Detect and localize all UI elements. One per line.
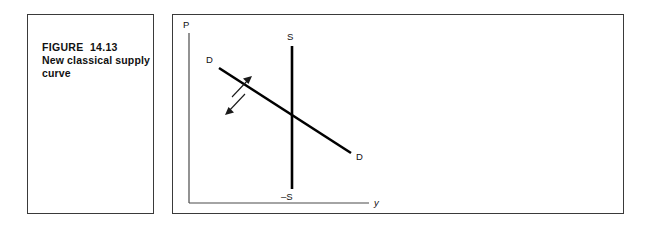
demand-curve-end-label: D: [356, 151, 363, 162]
figure-title-line-2: curve: [42, 67, 146, 80]
supply-demand-chart: P y S –S D D: [173, 15, 623, 213]
x-axis-label: y: [373, 197, 380, 208]
figure-root: FIGURE 14.13 New classical supply curve …: [0, 0, 648, 235]
y-axis-label: P: [183, 19, 189, 30]
demand-curve-line: [219, 68, 351, 153]
figure-caption-text: FIGURE 14.13 New classical supply curve: [42, 41, 146, 81]
figure-number-label: FIGURE 14.13: [42, 41, 146, 54]
figure-caption-box: FIGURE 14.13 New classical supply curve: [27, 14, 154, 214]
demand-curve-start-label: D: [206, 54, 213, 65]
supply-curve-bottom-label: –S: [281, 191, 293, 202]
shift-arrow-down-left-icon: [225, 94, 245, 115]
figure-title-line-1: New classical supply: [42, 54, 146, 67]
supply-curve-top-label: S: [287, 31, 293, 42]
figure-chart-box: P y S –S D D: [172, 14, 624, 214]
